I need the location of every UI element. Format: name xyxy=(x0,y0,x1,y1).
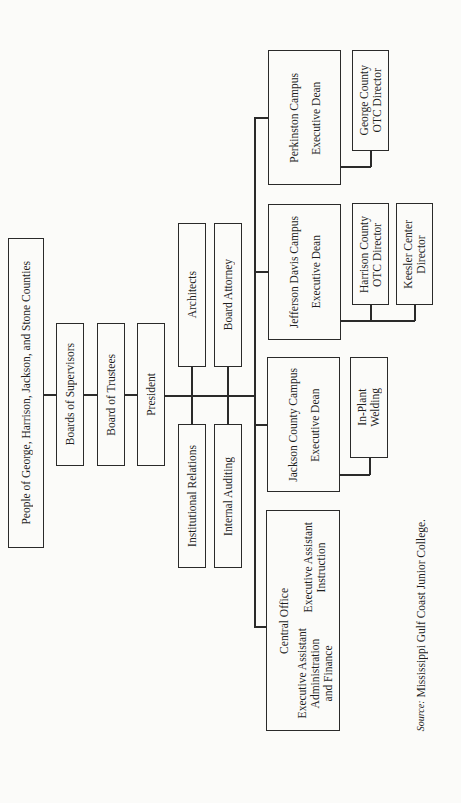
instruction-line2: Instruction xyxy=(315,542,327,592)
jackson-county-line1: Jackson County Campus xyxy=(287,368,299,482)
harrison-line2: OTC Director xyxy=(371,222,383,286)
node-people: People of George, Harrison, Jackson, and… xyxy=(8,238,44,548)
connector-spine-perkinston xyxy=(254,117,268,119)
connector-people-supervisors xyxy=(43,394,56,396)
source-value: Mississippi Gulf Coast Junior College. xyxy=(415,519,427,700)
node-george-county-otc: George CountyOTC Director xyxy=(352,50,389,151)
node-keesler-label: Keesler CenterDirector xyxy=(402,220,428,289)
node-president-label: President xyxy=(144,373,158,416)
node-perkinston: Perkinston CampusExecutive Dean xyxy=(268,50,341,185)
node-jackson-county-label: Jackson County CampusExecutive Dean xyxy=(282,368,326,482)
keesler-line2: Director xyxy=(415,235,427,273)
connector-attorney-auditing xyxy=(227,366,229,424)
node-in-plant-welding: In-PlantWelding xyxy=(350,357,388,458)
george-line2: OTC Director xyxy=(371,68,383,132)
keesler-line1: Keesler Center xyxy=(402,220,414,289)
connector-trustees-president xyxy=(124,394,137,396)
node-harrison-county-otc: Harrison CountyOTC Director xyxy=(352,203,389,305)
admin-line2: Administration xyxy=(309,638,321,708)
connector-supervisors-trustees xyxy=(83,394,97,396)
connector-spine-jackson-county xyxy=(254,424,268,426)
admin-line1: Executive Assistant xyxy=(296,628,308,718)
node-harrison-otc-label: Harrison CountyOTC Director xyxy=(358,216,384,293)
source-note: Source: Mississippi Gulf Coast Junior Co… xyxy=(412,505,430,745)
admin-line3: and Finance xyxy=(322,645,334,701)
node-internal-auditing: Internal Auditing xyxy=(214,424,242,568)
harrison-line1: Harrison County xyxy=(358,216,370,293)
central-office-instruction: Executive AssistantInstruction xyxy=(302,522,328,612)
connector-jackson-inplant-v xyxy=(369,457,371,475)
node-george-otc-label: George CountyOTC Director xyxy=(358,65,384,135)
jefferson-davis-line1: Jefferson Davis Campus xyxy=(288,216,300,328)
connector-spine xyxy=(254,117,256,627)
central-office-title: Central Office xyxy=(277,588,291,654)
perkinston-line1: Perkinston Campus xyxy=(288,73,300,163)
node-keesler-center: Keesler CenterDirector xyxy=(396,203,433,305)
node-architects-label: Architects xyxy=(185,271,199,318)
connector-jd-harrison xyxy=(370,304,372,321)
connector-architects-relations xyxy=(191,366,193,424)
node-boards-of-supervisors: Boards of Supervisors xyxy=(56,323,84,466)
source-label: Source: xyxy=(415,700,426,731)
node-board-attorney-label: Board Attorney xyxy=(221,259,235,330)
perkinston-line2: Executive Dean xyxy=(310,81,322,154)
node-board-of-trustees: Board of Trustees xyxy=(97,323,125,466)
node-president: President xyxy=(137,323,165,466)
connector-spine-jefferson-davis xyxy=(254,271,268,273)
jefferson-davis-line2: Executive Dean xyxy=(310,235,322,308)
node-supervisors-label: Boards of Supervisors xyxy=(63,343,77,445)
node-inplant-label: In-PlantWelding xyxy=(356,388,382,427)
connector-perkinston-george-v xyxy=(370,150,372,167)
node-jefferson-davis-label: Jefferson Davis CampusExecutive Dean xyxy=(283,216,327,328)
node-board-attorney: Board Attorney xyxy=(214,223,242,367)
source-text: Source: Mississippi Gulf Coast Junior Co… xyxy=(414,519,428,731)
connector-jd-children xyxy=(340,320,415,322)
node-internal-auditing-label: Internal Auditing xyxy=(221,457,235,536)
connector-perkinston-george xyxy=(340,166,371,168)
connector-jd-keesler xyxy=(414,304,416,321)
instruction-line1: Executive Assistant xyxy=(302,522,314,612)
node-jefferson-davis: Jefferson Davis CampusExecutive Dean xyxy=(268,204,341,340)
connector-jackson-inplant xyxy=(339,474,370,476)
george-line1: George County xyxy=(358,65,370,135)
connector-president-spine xyxy=(164,395,255,397)
node-jackson-county: Jackson County CampusExecutive Dean xyxy=(267,357,340,492)
jackson-county-line2: Executive Dean xyxy=(309,388,321,461)
inplant-line2: Welding xyxy=(369,388,381,427)
node-perkinston-label: Perkinston CampusExecutive Dean xyxy=(283,73,327,163)
central-office-admin-finance: Executive AssistantAdministrationand Fin… xyxy=(296,628,335,718)
node-architects: Architects xyxy=(178,223,206,367)
node-institutional-relations: Institutional Relations xyxy=(178,424,206,568)
node-institutional-relations-label: Institutional Relations xyxy=(185,445,199,547)
node-people-label: People of George, Harrison, Jackson, and… xyxy=(19,261,33,525)
inplant-line1: In-Plant xyxy=(356,389,368,426)
node-central-office: Central Office Executive AssistantAdmini… xyxy=(266,510,340,731)
node-trustees-label: Board of Trustees xyxy=(104,354,118,436)
